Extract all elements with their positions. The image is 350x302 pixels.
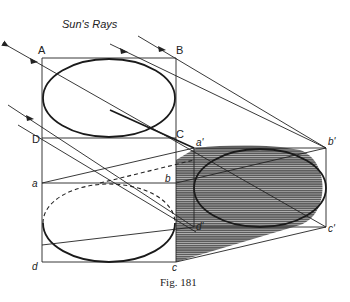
sun-rays-title: Sun's Rays <box>62 18 118 30</box>
label-c-prime: c' <box>328 223 336 234</box>
label-a: a <box>32 178 38 189</box>
shadow-diagram: Sun's Rays A B C D a b c d a' b' c' d' F… <box>0 0 350 302</box>
sun-ray-4 <box>8 105 194 227</box>
label-D: D <box>32 133 40 145</box>
bottom-ellipse-hidden <box>43 184 175 223</box>
label-C: C <box>176 128 184 140</box>
label-d-prime: d' <box>196 221 205 232</box>
ray-arrow-4 <box>26 115 34 121</box>
label-a-prime: a' <box>196 137 205 148</box>
top-ellipse <box>43 59 175 137</box>
label-A: A <box>38 44 46 56</box>
figure-caption: Fig. 181 <box>160 276 197 288</box>
label-b-prime: b' <box>328 136 337 147</box>
ray-arrow-3 <box>158 46 166 52</box>
ray-arrow-1 <box>30 58 38 64</box>
label-b: b <box>165 173 171 184</box>
label-B: B <box>176 44 183 56</box>
ray-arrow-2 <box>120 48 128 54</box>
label-c: c <box>172 262 177 273</box>
label-d: d <box>32 261 38 272</box>
sun-ray-3 <box>138 36 326 148</box>
